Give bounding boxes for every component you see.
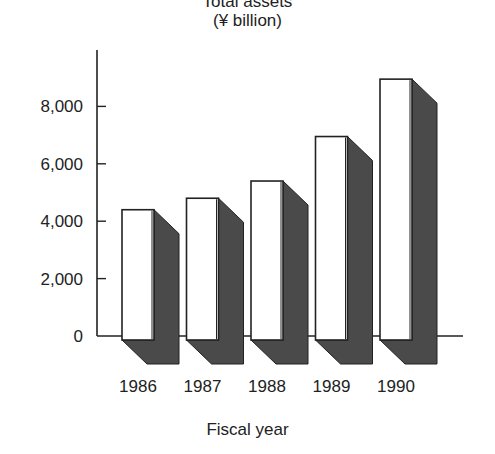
x-tick-label: 1990 (377, 377, 415, 396)
y-tick-label: 4,000 (40, 212, 83, 231)
bar-1989 (316, 137, 348, 340)
y-tick-label: 8,000 (40, 97, 83, 116)
y-tick-label: 2,000 (40, 270, 83, 289)
x-tick-label: 1989 (313, 377, 351, 396)
bar-1990 (380, 79, 412, 340)
bar-1987 (187, 198, 219, 340)
x-tick-label: 1988 (248, 377, 286, 396)
y-tick-label: 6,000 (40, 155, 83, 174)
x-tick-label: 1987 (184, 377, 222, 396)
x-axis-label: Fiscal year (0, 420, 495, 440)
bar-1986 (122, 210, 154, 340)
bar-chart: 02,0004,0006,0008,0001986198719881989199… (0, 0, 495, 454)
x-tick-label: 1986 (119, 377, 157, 396)
y-tick-label: 0 (74, 327, 83, 346)
bar-1988 (251, 181, 283, 340)
